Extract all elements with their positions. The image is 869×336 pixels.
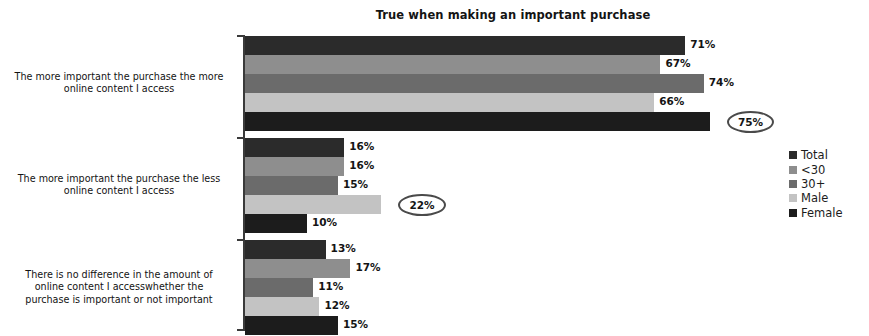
legend-item-total[interactable]: Total xyxy=(789,148,867,162)
bar-value-label-highlighted: 22% xyxy=(398,194,445,216)
bar-value-label: 13% xyxy=(331,242,356,254)
category-axis-label-line: The more important the purchase the more xyxy=(5,71,233,84)
bar-male[interactable] xyxy=(245,297,319,316)
bar-value-label: 71% xyxy=(690,38,715,50)
bar-total[interactable] xyxy=(245,240,326,259)
bar-value-label: 11% xyxy=(318,280,343,292)
legend-label: <30 xyxy=(801,164,825,176)
bar-value-label: 16% xyxy=(349,159,374,171)
bar-female[interactable] xyxy=(245,112,710,131)
category-group: There is no difference in the amount ofo… xyxy=(0,240,780,335)
bar-male[interactable] xyxy=(245,93,654,112)
bar-30[interactable] xyxy=(245,259,350,278)
category-axis-label: There is no difference in the amount ofo… xyxy=(5,269,233,307)
bar-30[interactable] xyxy=(245,278,313,297)
legend-swatch-icon xyxy=(789,180,797,188)
bar-value-label: 17% xyxy=(355,261,380,273)
bar-value-label: 15% xyxy=(343,318,368,330)
bar-female[interactable] xyxy=(245,316,338,335)
bar-value-label: 66% xyxy=(659,95,684,107)
legend-swatch-icon xyxy=(789,151,797,159)
category-axis-label-line: online content I access xyxy=(5,83,233,96)
legend-item-30[interactable]: 30+ xyxy=(789,177,867,191)
bar-value-label-highlighted: 75% xyxy=(727,111,774,133)
bar-total[interactable] xyxy=(245,36,685,55)
legend-label: Male xyxy=(801,192,828,204)
bar-female[interactable] xyxy=(245,214,307,233)
chart-title: True when making an important purchase xyxy=(243,8,783,22)
plot-area: The more important the purchase the more… xyxy=(0,30,780,332)
bar-total[interactable] xyxy=(245,138,344,157)
bar-male[interactable] xyxy=(245,195,381,214)
legend-label: Total xyxy=(801,149,828,161)
bar-30[interactable] xyxy=(245,55,660,74)
bar-value-label: 12% xyxy=(324,299,349,311)
bar-value-label: 74% xyxy=(709,76,734,88)
legend-swatch-icon xyxy=(789,209,797,217)
bar-30[interactable] xyxy=(245,176,338,195)
category-group: The more important the purchase the more… xyxy=(0,36,780,131)
bar-value-label: 16% xyxy=(349,140,374,152)
legend-label: 30+ xyxy=(801,178,825,190)
category-axis-label-line: online content I accesswhether the xyxy=(5,281,233,294)
legend-label: Female xyxy=(801,207,843,219)
chart-legend: Total<3030+MaleFemale xyxy=(789,148,867,220)
bar-value-label: 10% xyxy=(312,216,337,228)
legend-item-female[interactable]: Female xyxy=(789,206,867,220)
category-axis-label-line: There is no difference in the amount of xyxy=(5,269,233,282)
bar-chart: True when making an important purchase T… xyxy=(0,0,869,336)
legend-swatch-icon xyxy=(789,166,797,174)
category-axis-label-line: online content I access xyxy=(5,185,233,198)
legend-item-male[interactable]: Male xyxy=(789,191,867,205)
legend-swatch-icon xyxy=(789,194,797,202)
category-group: The more important the purchase the less… xyxy=(0,138,780,233)
category-axis-label-line: purchase is important or not important xyxy=(5,294,233,307)
bar-30[interactable] xyxy=(245,157,344,176)
category-axis-label: The more important the purchase the less… xyxy=(5,173,233,198)
bar-value-label: 15% xyxy=(343,178,368,190)
legend-item-30[interactable]: <30 xyxy=(789,162,867,176)
category-axis-label-line: The more important the purchase the less xyxy=(5,173,233,186)
bar-30[interactable] xyxy=(245,74,704,93)
category-axis-label: The more important the purchase the more… xyxy=(5,71,233,96)
bar-value-label: 67% xyxy=(665,57,690,69)
